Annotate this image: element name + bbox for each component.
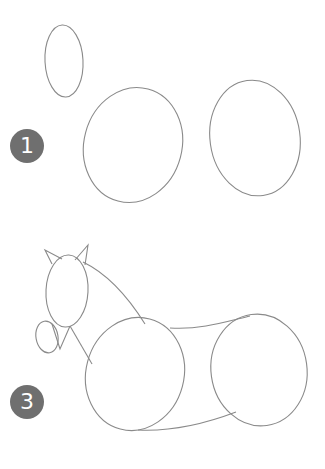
step3-shapes — [33, 245, 314, 442]
hindquarters-oval — [204, 308, 315, 432]
ear-left — [45, 250, 62, 264]
step-badge-3: 3 — [10, 385, 44, 419]
head-oval — [43, 24, 85, 98]
neck-top — [83, 262, 145, 324]
hindquarters-oval — [202, 74, 307, 201]
chest-oval — [73, 306, 197, 441]
chest-oval — [71, 76, 196, 213]
back-line — [170, 316, 250, 328]
step-badge-1: 1 — [10, 129, 44, 163]
belly-line — [138, 412, 236, 430]
ear-right — [75, 245, 88, 265]
drawing-canvas — [0, 0, 325, 469]
head-oval — [44, 254, 90, 328]
step1-shapes — [43, 24, 307, 214]
